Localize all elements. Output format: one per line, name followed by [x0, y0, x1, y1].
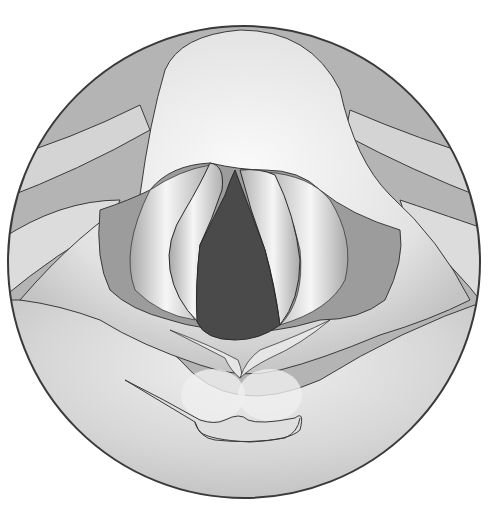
arytenoid-right [238, 369, 302, 421]
larynx-illustration [0, 0, 488, 517]
arytenoid-left [181, 369, 245, 421]
larynx-diagram [0, 0, 488, 517]
